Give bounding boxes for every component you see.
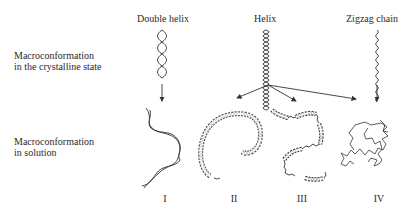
column-label-helix: Helix	[254, 13, 276, 24]
row-label-crystalline-line2: in the crystalline state	[14, 61, 101, 72]
row-label-solution-line1: Macroconformation	[14, 136, 94, 147]
column-label-zigzag-chain: Zigzag chain	[346, 13, 398, 24]
double-helix-crystalline-icon	[158, 30, 167, 78]
form-label-IV: IV	[364, 193, 394, 204]
form-II-helix-solution	[201, 114, 261, 179]
row-label-solution-line2: in solution	[14, 147, 94, 158]
helix-crystalline-icon	[263, 30, 269, 110]
form-III-partial-helix-solution	[272, 110, 326, 180]
form-IV-random-coil	[341, 120, 388, 166]
form-I-double-helix-solution	[142, 108, 180, 188]
form-label-III: III	[287, 193, 317, 204]
diagram-drawing	[0, 0, 420, 212]
arrow-helix-to-IV	[268, 85, 356, 99]
row-label-solution: Macroconformation in solution	[14, 136, 94, 158]
form-label-II: II	[219, 193, 249, 204]
form-label-I: I	[150, 193, 180, 204]
column-label-double-helix: Double helix	[137, 13, 189, 24]
row-label-crystalline: Macroconformation in the crystalline sta…	[14, 50, 101, 72]
row-label-crystalline-line1: Macroconformation	[14, 50, 101, 61]
